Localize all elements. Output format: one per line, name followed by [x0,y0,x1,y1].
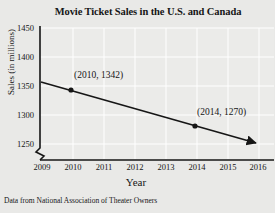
y-tick-label: 1400 [4,53,34,62]
y-tick-label: 1450 [4,24,34,33]
x-tick-label: 2009 [25,163,59,172]
plot-background [40,28,274,159]
x-tick-label: 2011 [87,163,121,172]
x-tick-label: 2010 [56,163,90,172]
x-tick-label: 2013 [149,163,183,172]
y-tick-label: 1250 [4,140,34,149]
y-tick-label: 1350 [4,82,34,91]
x-tick-label: 2016 [241,163,275,172]
data-point-2010 [68,87,73,92]
x-tick-label: 2015 [211,163,245,172]
x-tick-label: 2014 [180,163,214,172]
annotation-2014: (2014, 1270) [197,107,246,117]
chart-figure: Movie Ticket Sales in the U.S. and Canad… [0,0,275,213]
source-footnote: Data from National Association of Theate… [4,196,157,205]
data-point-2014 [192,123,197,128]
x-axis-title: Year [36,176,236,188]
y-tick-label: 1300 [4,111,34,120]
annotation-2010: (2010, 1342) [74,70,123,80]
x-tick-label: 2012 [118,163,152,172]
